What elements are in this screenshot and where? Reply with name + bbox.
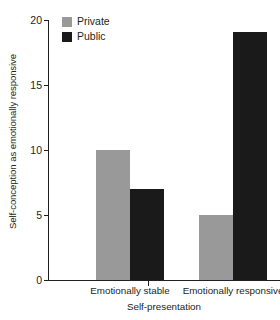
y-axis-tick-label: 0 — [22, 274, 42, 286]
legend-label-private: Private — [77, 16, 110, 27]
bar-private-group-2 — [199, 215, 233, 280]
y-axis-tick-labels: 05101520 — [20, 0, 42, 320]
x-axis-category-label: Emotionally responsive — [183, 285, 280, 296]
chart-legend: Private Public — [62, 15, 110, 43]
x-axis-line — [48, 280, 280, 281]
y-axis-tick-mark — [44, 280, 49, 281]
bar-chart-figure: Self-conception as emotionally responsiv… — [0, 0, 280, 320]
y-axis-tick-label: 20 — [22, 14, 42, 26]
y-axis-tick-mark — [44, 150, 49, 151]
legend-swatch-private-icon — [62, 17, 72, 27]
x-axis-title: Self-presentation — [48, 301, 280, 312]
legend-swatch-public-icon — [62, 32, 72, 42]
legend-label-public: Public — [77, 31, 106, 42]
bar-public-group-2 — [233, 32, 267, 280]
y-axis-tick-mark — [44, 20, 49, 21]
y-axis-tick-label: 5 — [22, 209, 42, 221]
x-axis-category-label: Emotionally stable — [90, 285, 170, 296]
bar-public-group-1 — [130, 189, 164, 280]
y-axis-tick-label: 10 — [22, 144, 42, 156]
legend-item-private: Private — [62, 15, 110, 28]
plot-area: Private Public — [48, 20, 280, 280]
y-axis-tick-mark — [44, 85, 49, 86]
bar-private-group-1 — [96, 150, 130, 280]
legend-item-public: Public — [62, 30, 110, 43]
y-axis-tick-label: 15 — [22, 79, 42, 91]
y-axis-title: Self-conception as emotionally responsiv… — [7, 12, 18, 272]
y-axis-tick-mark — [44, 215, 49, 216]
